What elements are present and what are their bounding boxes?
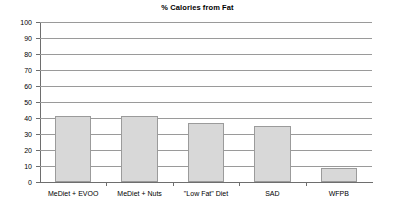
y-axis-tick-label: 90 <box>24 35 32 42</box>
y-axis-tick-mark <box>36 182 40 183</box>
y-axis-tick-label: 40 <box>24 115 32 122</box>
x-axis-tick-mark <box>306 182 307 186</box>
bar-series <box>40 22 372 182</box>
chart-title: % Calories from Fat <box>0 3 395 12</box>
x-axis-tick-mark <box>239 182 240 186</box>
y-axis-tick-mark <box>36 54 40 55</box>
x-axis-tick-mark <box>106 182 107 186</box>
bar-chart: % Calories from Fat 01020304050607080901… <box>0 0 395 210</box>
y-axis-tick-label: 70 <box>24 67 32 74</box>
y-axis-tick-label: 60 <box>24 83 32 90</box>
bar <box>55 116 92 182</box>
y-axis-tick-mark <box>36 38 40 39</box>
x-axis-line <box>40 182 373 183</box>
y-axis-tick-mark <box>36 86 40 87</box>
bar <box>321 168 358 182</box>
plot-area <box>40 22 372 182</box>
y-axis-tick-label: 50 <box>24 99 32 106</box>
bar <box>121 116 158 182</box>
y-axis-tick-mark <box>36 134 40 135</box>
y-axis-tick-labels: 0102030405060708090100 <box>0 22 36 182</box>
y-axis-tick-label: 100 <box>20 19 32 26</box>
x-axis-tick-mark <box>173 182 174 186</box>
y-axis-tick-mark <box>36 118 40 119</box>
y-axis-tick-mark <box>36 22 40 23</box>
y-axis-tick-label: 20 <box>24 147 32 154</box>
y-axis-tick-label: 10 <box>24 163 32 170</box>
y-axis-tick-label: 0 <box>28 179 32 186</box>
x-axis-tick-label: WFPB <box>306 189 372 198</box>
y-axis-tick-mark <box>36 70 40 71</box>
x-axis-tick-label: "Low Fat" Diet <box>173 189 239 198</box>
x-axis-tick-label: MeDiet + EVOO <box>40 189 106 198</box>
y-axis-tick-label: 30 <box>24 131 32 138</box>
y-axis-tick-mark <box>36 166 40 167</box>
x-axis-tick-labels: MeDiet + EVOOMeDiet + Nuts"Low Fat" Diet… <box>40 189 372 203</box>
x-axis-tick-label: MeDiet + Nuts <box>106 189 172 198</box>
bar <box>188 123 225 182</box>
y-axis-tick-label: 80 <box>24 51 32 58</box>
y-axis-tick-mark <box>36 150 40 151</box>
bar <box>254 126 291 182</box>
y-axis-tick-mark <box>36 102 40 103</box>
x-axis-tick-label: SAD <box>239 189 305 198</box>
